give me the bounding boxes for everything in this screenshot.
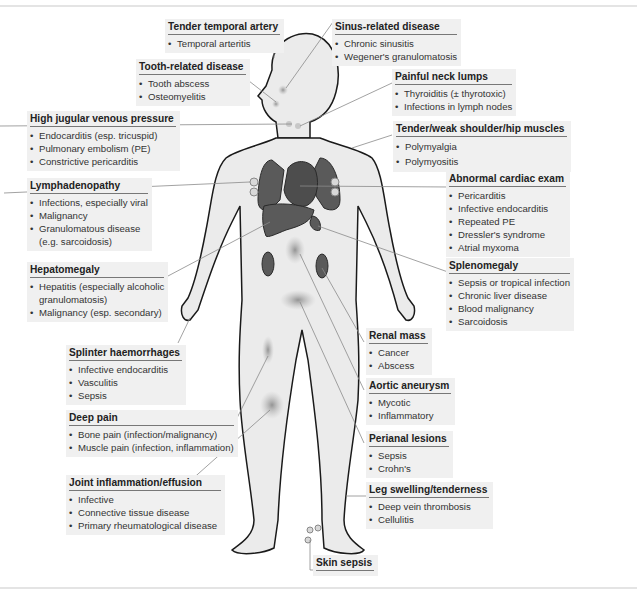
callout-item: Pericarditis (449, 189, 566, 202)
thigh-area (262, 336, 274, 364)
callout-item: Muscle pain (infection, inflammation) (69, 441, 234, 454)
callout-item: Polymyositis (396, 154, 567, 169)
callout-splinter: Splinter haemorrhages Infective endocard… (66, 345, 186, 405)
callout-title: Tooth-related disease (139, 59, 246, 75)
callout-item: Mycotic (369, 396, 451, 409)
foot-spot (307, 527, 313, 533)
callout-temporal-artery: Tender temporal artery Temporal arteriti… (165, 19, 284, 53)
callout-item: Vasculitis (69, 376, 182, 389)
callout-item: Cancer (369, 346, 428, 359)
callout-perianal: Perianal lesions Sepsis Crohn's (366, 431, 453, 478)
callout-neck-lumps: Painful neck lumps Thyroiditis (± thyrot… (392, 69, 516, 116)
callout-item: Chronic liver disease (449, 289, 570, 302)
aorta-area (285, 236, 305, 264)
callout-item: Blood malignancy (449, 302, 570, 315)
callout-title: Skin sepsis (316, 555, 374, 571)
knee-area (260, 391, 284, 419)
callout-aortic-aneurysm: Aortic aneurysm Mycotic Inflammatory (366, 378, 455, 425)
callout-title: Abnormal cardiac exam (449, 171, 566, 187)
callout-item: Polymyalgia (396, 139, 567, 154)
tooth-spot (272, 100, 280, 108)
callout-item: Endocarditis (esp. tricuspid) (30, 129, 176, 142)
callout-item: Thyroiditis (± thyrotoxic) (395, 87, 512, 100)
callout-item: Malignancy (esp. secondary) (30, 306, 164, 319)
lymph-node (331, 178, 339, 186)
callout-item: Infective (69, 493, 221, 506)
callout-item: Infections, especially viral (30, 196, 148, 209)
foot-spot (315, 525, 321, 531)
callout-item: Temporal arteritis (168, 37, 280, 50)
left-kidney (262, 252, 274, 276)
callout-item: Bone pain (infection/malignancy) (69, 428, 234, 441)
callout-title: Splenomegaly (449, 258, 570, 274)
callout-leg-swelling: Leg swelling/tenderness Deep vein thromb… (366, 482, 493, 529)
callout-item: Dressler's syndrome (449, 228, 566, 241)
callout-item: Cellulitis (369, 513, 489, 526)
callout-item: Atrial myxoma (449, 241, 566, 254)
callout-item: Crohn's (369, 462, 449, 475)
callout-item: Sepsis (369, 449, 449, 462)
callout-lymphadenopathy: Lymphadenopathy Infections, especially v… (27, 178, 152, 251)
callout-hepatomegaly: Hepatomegaly Hepatitis (especially alcoh… (27, 262, 168, 322)
callout-title: Perianal lesions (369, 431, 449, 447)
callout-item: Infective endocarditis (69, 363, 182, 376)
callout-item: Sepsis (69, 389, 182, 402)
callout-item: Constrictive pericarditis (30, 155, 176, 168)
callout-jvp: High jugular venous pressure Endocarditi… (27, 111, 180, 171)
callout-sinus: Sinus-related disease Chronic sinusitis … (332, 19, 461, 66)
callout-title: Lymphadenopathy (30, 178, 148, 194)
callout-deep-pain: Deep pain Bone pain (infection/malignanc… (66, 410, 238, 457)
callout-splenomegaly: Splenomegaly Sepsis or tropical infectio… (446, 258, 574, 331)
callout-item: Malignancy (30, 209, 148, 222)
callout-item-continuation: (e.g. sarcoidosis) (30, 235, 148, 248)
callout-item: Connective tissue disease (69, 506, 221, 519)
callout-item: Osteomyelitis (139, 90, 246, 103)
callout-item: Infective endocarditis (449, 202, 566, 215)
lymph-node (250, 178, 258, 186)
callout-title: Leg swelling/tenderness (369, 482, 489, 498)
callout-title: Aortic aneurysm (369, 378, 451, 394)
callout-title: Joint inflammation/effusion (69, 475, 221, 491)
callout-item: Sepsis or tropical infection (449, 276, 570, 289)
callout-item: Tooth abscess (139, 77, 246, 90)
callout-title: High jugular venous pressure (30, 111, 176, 127)
right-kidney (316, 254, 328, 278)
callout-tooth: Tooth-related disease Tooth abscess Oste… (136, 59, 250, 106)
callout-item: Chronic sinusitis (335, 37, 457, 50)
sinus-spot (278, 85, 288, 95)
callout-item-continuation: granulomatosis) (30, 293, 164, 306)
callout-shoulder-hip: Tender/weak shoulder/hip muscles Polymya… (393, 121, 571, 172)
callout-item: Wegener's granulomatosis (335, 50, 457, 63)
callout-item: Deep vein thrombosis (369, 500, 489, 513)
callout-title: Painful neck lumps (395, 69, 512, 85)
lymph-node (250, 188, 258, 196)
callout-title: Renal mass (369, 328, 428, 344)
callout-item: Primary rheumatological disease (69, 519, 221, 532)
callout-title: Tender/weak shoulder/hip muscles (396, 121, 567, 137)
callout-item: Repeated PE (449, 215, 566, 228)
callout-item: Pulmonary embolism (PE) (30, 142, 176, 155)
callout-item: Inflammatory (369, 409, 451, 422)
callout-item: Infections in lymph nodes (395, 100, 512, 113)
callout-item: Hepatitis (especially alcoholic (30, 280, 164, 293)
callout-renal-mass: Renal mass Cancer Abscess (366, 328, 432, 375)
callout-title: Sinus-related disease (335, 19, 457, 35)
callout-skin-sepsis: Skin sepsis (313, 555, 378, 576)
callout-title: Tender temporal artery (168, 19, 280, 35)
callout-title: Deep pain (69, 410, 234, 426)
callout-title: Hepatomegaly (30, 262, 164, 278)
callout-joint: Joint inflammation/effusion Infective Co… (66, 475, 225, 535)
callout-item: Sarcoidosis (449, 315, 570, 328)
callout-item: Granulomatous disease (30, 222, 148, 235)
callout-cardiac: Abnormal cardiac exam Pericarditis Infec… (446, 171, 570, 257)
callout-title: Splinter haemorrhages (69, 345, 182, 361)
perianal-area (280, 290, 316, 310)
heart (284, 162, 318, 207)
lymph-node (331, 188, 339, 196)
callout-item: Abscess (369, 359, 428, 372)
